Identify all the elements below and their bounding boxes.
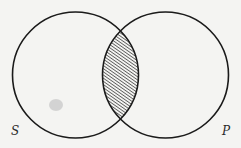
venn-diagram: [0, 0, 241, 148]
set-p-label: P: [222, 125, 230, 137]
set-s-label: S: [11, 125, 19, 137]
smudge-artifact: [49, 99, 63, 111]
